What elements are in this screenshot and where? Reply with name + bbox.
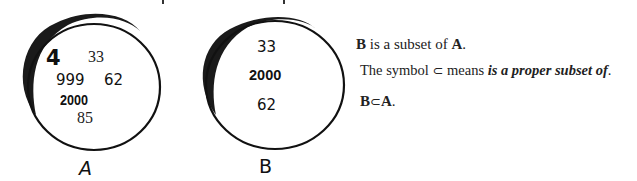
period: . — [392, 93, 396, 109]
set-a-element: 33 — [88, 48, 104, 66]
set-b-element: 2000 — [249, 67, 281, 83]
period: . — [462, 36, 466, 52]
set-a-ref: A — [451, 36, 462, 52]
set-a-element: 2000 — [60, 92, 88, 108]
subset-notation: B⊂A. — [360, 93, 396, 110]
cropped-mark — [162, 0, 164, 4]
set-a-element: 999 — [56, 71, 85, 89]
set-b-element: 33 — [257, 38, 276, 56]
set-a-ref: A — [381, 93, 392, 109]
definition-prefix: The symbol — [360, 62, 433, 78]
set-a-element: 4 — [46, 46, 61, 70]
set-a-element: 85 — [77, 109, 93, 127]
symbol-definition: The symbol ⊂ means is a proper subset of… — [360, 62, 611, 79]
statement-text: is a subset of — [366, 36, 451, 52]
definition-middle: means — [443, 62, 487, 78]
set-b-ref: B — [360, 93, 370, 109]
set-a-circle — [8, 5, 168, 153]
period: . — [608, 62, 612, 78]
set-b-element: 62 — [257, 96, 276, 114]
set-a-label: A — [79, 157, 92, 179]
proper-subset-symbol: ⊂ — [370, 94, 381, 109]
set-b-ref: B — [356, 36, 366, 52]
set-b-label: B — [259, 155, 272, 177]
set-a-element: 62 — [104, 71, 123, 89]
proper-subset-symbol: ⊂ — [433, 63, 444, 78]
subset-statement: B is a subset of A. — [356, 36, 466, 53]
definition-emphasis: is a proper subset of — [488, 62, 608, 78]
cropped-mark — [283, 0, 285, 4]
